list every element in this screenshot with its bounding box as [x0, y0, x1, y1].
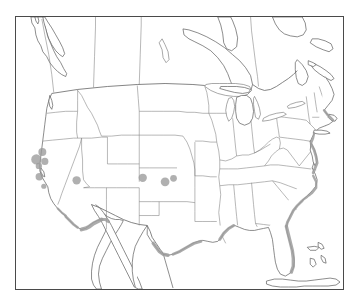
canada-us-border: [52, 84, 205, 94]
border-ky-tn: [220, 165, 271, 169]
border-mn-ia: [179, 111, 209, 113]
florida-gulf-coast: [235, 225, 269, 230]
cuba-coast: [266, 278, 340, 287]
quebec-us-border: [253, 71, 298, 91]
bahamas-eleuthera: [321, 255, 326, 263]
lake-huron: [254, 96, 261, 119]
border-wa-or-id: [77, 89, 78, 138]
newfoundland-coast: [310, 39, 333, 52]
lake-ontario: [287, 101, 305, 108]
quebec-ontario-border: [251, 17, 259, 86]
border-nv-ut: [82, 138, 84, 180]
map-frame: [15, 16, 344, 290]
border-ne-ia-mo: [183, 136, 195, 176]
border-oh-pa: [276, 116, 279, 137]
lake-erie: [262, 112, 286, 121]
us-west-layer: [40, 93, 142, 289]
marker-ca-north-4: [36, 163, 42, 169]
province-border-ab-sk: [94, 17, 96, 87]
bahamas-grand-bahama: [307, 246, 319, 250]
border-id-mt: [78, 90, 102, 136]
long-island: [313, 130, 330, 134]
border-va-wv: [264, 148, 299, 166]
bahamas-andros: [310, 258, 316, 267]
pacific-coastline: [40, 93, 123, 289]
border-ms-al: [234, 185, 238, 226]
border-mt-nd: [137, 85, 139, 135]
border-il-ia: [209, 113, 217, 142]
border-ia-mo: [195, 141, 217, 142]
border-ks-ok: [139, 202, 195, 203]
border-ok-tx-panhandle: [139, 202, 159, 216]
figure-container: [0, 0, 359, 307]
border-vt-nh: [314, 92, 317, 112]
border-in-oh: [251, 116, 255, 153]
new-brunswick-coast: [295, 60, 308, 86]
lake-winnipeg: [159, 39, 169, 63]
marker-ok-north-2: [170, 175, 177, 182]
border-al-ga: [252, 183, 259, 230]
border-mt-wy-id: [101, 135, 139, 136]
canada-layer: [31, 17, 334, 95]
mexico-interior: [132, 225, 147, 287]
marker-ca-central: [36, 173, 44, 181]
border-wv-oh: [255, 137, 281, 153]
prince-edward-island: [308, 61, 316, 67]
quebec-north-coast: [272, 17, 306, 37]
border-mo-ar: [195, 176, 217, 177]
border-il-in: [233, 118, 237, 156]
ohio-river-border: [220, 144, 271, 161]
marker-ca-north-1: [38, 148, 46, 156]
province-border-sk-mb: [139, 17, 141, 85]
border-pa-md: [279, 137, 309, 141]
border-tn-south: [220, 181, 273, 186]
nova-scotia-coast: [311, 64, 334, 81]
border-mn-wi: [205, 86, 209, 113]
marker-ok-north-1: [161, 177, 170, 186]
michigan-lower-peninsula: [236, 95, 254, 125]
border-ny-vt: [306, 96, 310, 124]
mexico-east-coast: [163, 253, 173, 288]
border-pa-ny: [276, 116, 310, 124]
border-ut-id: [82, 137, 108, 164]
great-lakes-layer: [205, 84, 305, 126]
map-canvas: [16, 17, 343, 289]
marker-ca-north-3: [41, 158, 48, 165]
lake-michigan: [226, 97, 235, 121]
border-sd-ne: [139, 135, 183, 136]
bahamas-abaco: [318, 242, 324, 249]
border-nc-va: [270, 165, 316, 170]
marker-ca-south: [41, 184, 46, 189]
marker-ks-west: [139, 174, 147, 182]
marker-az-west: [72, 176, 80, 184]
